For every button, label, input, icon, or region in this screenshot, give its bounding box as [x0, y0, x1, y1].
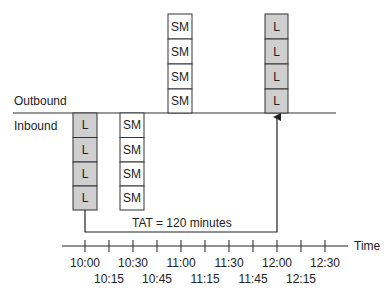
- outbound-small-stack: SM SM SM SM: [168, 14, 192, 113]
- tick-label: 11:15: [190, 272, 219, 286]
- tick-label: 10:15: [94, 272, 124, 286]
- box-label: SM: [171, 70, 189, 84]
- tick-label: 12:15: [286, 272, 316, 286]
- box-label: L: [273, 45, 280, 59]
- box-label: L: [82, 143, 89, 157]
- box-label: SM: [123, 167, 141, 181]
- time-axis-label: Time: [354, 239, 381, 253]
- box-label: SM: [123, 118, 141, 132]
- tick-label: 10:45: [142, 272, 172, 286]
- tick-label: 11:00: [166, 256, 195, 270]
- tat-connector-line: [85, 117, 277, 232]
- tick-label: 11:45: [238, 272, 267, 286]
- inbound-label: Inbound: [14, 119, 57, 133]
- tick-label: 12:30: [310, 256, 340, 270]
- outbound-label: Outbound: [14, 94, 67, 108]
- tick-label: 10:30: [118, 256, 148, 270]
- diagram-svg: Outbound Inbound L L L L SM SM SM SM SM …: [0, 0, 392, 298]
- tick-label: 10:00: [70, 256, 100, 270]
- box-label: SM: [171, 94, 189, 108]
- box-label: L: [82, 191, 89, 205]
- box-label: SM: [123, 143, 141, 157]
- box-label: L: [273, 94, 280, 108]
- inbound-large-stack: L L L L: [73, 113, 97, 210]
- box-label: L: [273, 70, 280, 84]
- inbound-small-stack: SM SM SM SM: [120, 113, 144, 210]
- tick-label: 12:00: [262, 256, 292, 270]
- tat-label: TAT = 120 minutes: [132, 216, 232, 230]
- tick-label: 11:30: [214, 256, 243, 270]
- box-label: L: [273, 20, 280, 34]
- box-label: SM: [171, 20, 189, 34]
- tat-diagram: Outbound Inbound L L L L SM SM SM SM SM …: [0, 0, 392, 298]
- outbound-large-stack: L L L L: [265, 14, 288, 113]
- box-label: SM: [123, 191, 141, 205]
- box-label: L: [82, 118, 89, 132]
- box-label: L: [82, 167, 89, 181]
- box-label: SM: [171, 45, 189, 59]
